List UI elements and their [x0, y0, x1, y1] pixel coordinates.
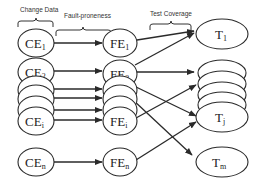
- ce-column: CE1 CE2 CEi CEn: [18, 29, 54, 176]
- fe-column: FE1 FE2 FEi FEn: [103, 29, 137, 176]
- brace-change-data: [18, 18, 53, 27]
- header-test-coverage: Test Coverage: [150, 10, 192, 18]
- edges-ce-fe: [54, 43, 102, 162]
- fe-node-i: FEi: [103, 107, 137, 135]
- t-node-m: Tm: [196, 147, 248, 177]
- brace-test-coverage: [150, 21, 191, 30]
- brace-fault-proneness: [56, 27, 111, 36]
- header-fault-proneness: Fault-proneness: [64, 12, 112, 20]
- edges-fe-t: [132, 31, 196, 160]
- t-column: T1 Tj Tm: [196, 19, 248, 177]
- change-fault-test-diagram: Change Data Fault-proneness Test Coverag…: [0, 0, 258, 182]
- ce-node-n: CEn: [18, 148, 54, 176]
- fe-node-n: FEn: [103, 148, 137, 176]
- fe-node-1: FE1: [103, 29, 137, 57]
- ce-node-1: CE1: [18, 29, 54, 57]
- header-change-data: Change Data: [20, 6, 59, 14]
- ce-node-i: CEi: [18, 107, 54, 135]
- t-node-j: Tj: [196, 102, 248, 132]
- t-node-1: T1: [196, 19, 248, 49]
